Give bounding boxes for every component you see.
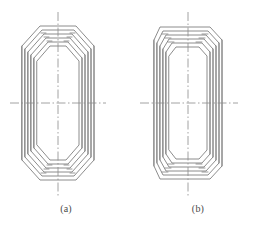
figure-panel-a: (a)	[0, 0, 132, 231]
drawing-b	[132, 0, 264, 206]
drawing-a	[0, 0, 132, 206]
figure-sheet: (a)	[0, 0, 264, 231]
figure-caption-a: (a)	[0, 203, 132, 214]
figure-caption-b: (b)	[132, 203, 264, 214]
figure-panel-b: (b)	[132, 0, 264, 231]
